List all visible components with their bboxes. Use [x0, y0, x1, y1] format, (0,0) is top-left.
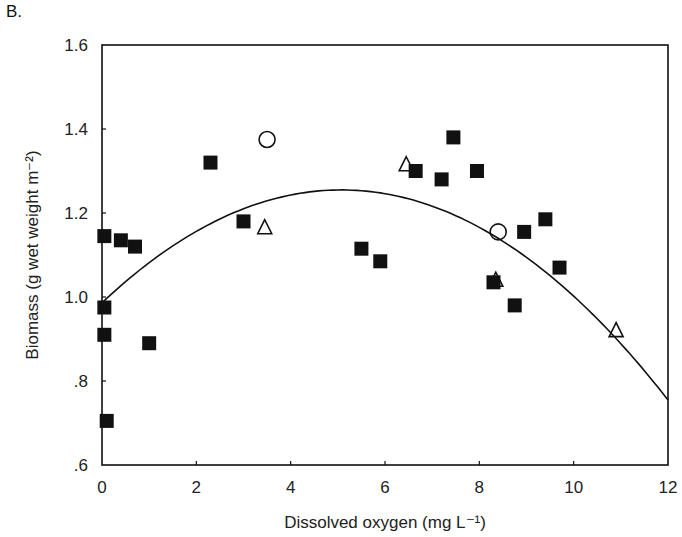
- y-tick-label: 1.2: [64, 204, 88, 223]
- square-marker: [97, 328, 111, 342]
- y-axis-title: Biomass (g wet weight m⁻²): [23, 150, 42, 359]
- square-marker: [517, 225, 531, 239]
- square-marker: [142, 336, 156, 350]
- square-marker: [97, 301, 111, 315]
- x-tick-label: 12: [659, 478, 678, 497]
- y-tick-label: .6: [74, 456, 88, 475]
- triangle-marker: [609, 323, 623, 337]
- x-tick-label: 4: [286, 478, 295, 497]
- y-tick-label: 1.6: [64, 36, 88, 55]
- x-tick-label: 10: [564, 478, 583, 497]
- data-markers: [97, 130, 623, 428]
- y-tick-label: 1.4: [64, 120, 88, 139]
- square-marker: [508, 298, 522, 312]
- axis-ticks: 024681012.6.81.01.21.41.6: [64, 36, 677, 497]
- square-marker: [553, 261, 567, 275]
- triangle-marker: [258, 220, 272, 234]
- fit-curve: [102, 190, 668, 400]
- square-marker: [203, 156, 217, 170]
- square-marker: [97, 229, 111, 243]
- scatter-chart: 024681012.6.81.01.21.41.6 Dissolved oxyg…: [0, 0, 682, 537]
- x-tick-label: 8: [475, 478, 484, 497]
- square-marker: [435, 172, 449, 186]
- x-tick-label: 0: [97, 478, 106, 497]
- x-tick-label: 2: [192, 478, 201, 497]
- square-marker: [237, 214, 251, 228]
- square-marker: [446, 130, 460, 144]
- square-marker: [470, 164, 484, 178]
- square-marker: [100, 414, 114, 428]
- square-marker: [114, 233, 128, 247]
- square-marker: [354, 242, 368, 256]
- x-axis-title: Dissolved oxygen (mg L⁻¹): [284, 513, 486, 532]
- square-marker: [373, 254, 387, 268]
- square-marker: [128, 240, 142, 254]
- square-marker: [538, 212, 552, 226]
- circle-marker: [259, 132, 275, 148]
- quadratic-fit-line: [102, 190, 668, 400]
- y-tick-label: 1.0: [64, 288, 88, 307]
- y-tick-label: .8: [74, 372, 88, 391]
- x-tick-label: 6: [380, 478, 389, 497]
